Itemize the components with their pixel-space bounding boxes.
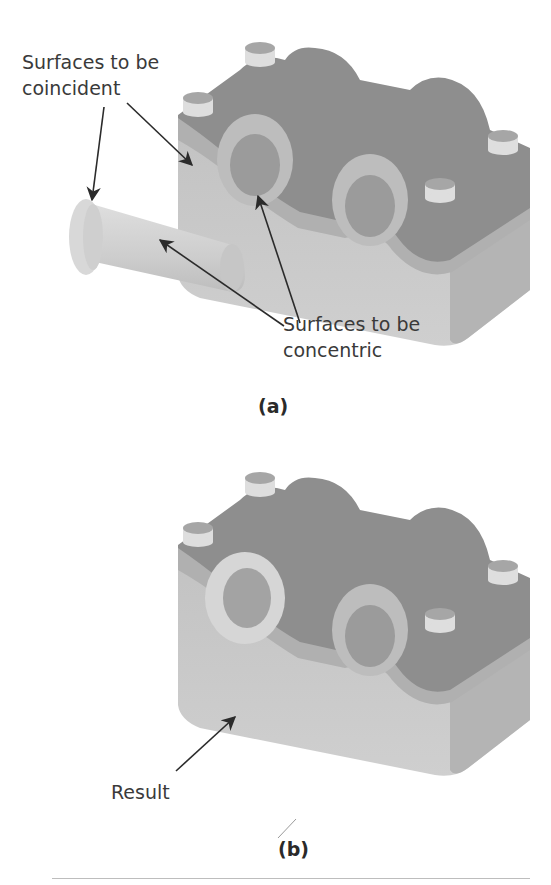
caption-panel-b: (b): [278, 838, 309, 860]
pin: [183, 92, 213, 117]
label-coincident-line1: Surfaces to be: [22, 50, 159, 74]
caption-panel-a: (a): [258, 395, 288, 417]
label-concentric-line2: concentric: [283, 338, 382, 362]
label-coincident-line2: coincident: [22, 76, 120, 100]
label-concentric-line1: Surfaces to be: [283, 312, 420, 336]
housing-a: [178, 42, 530, 346]
housing-b: [178, 472, 530, 776]
pin: [425, 178, 455, 203]
figure: Surfaces to be coincident Surfaces to be…: [0, 0, 551, 885]
figure-drawing: [0, 0, 551, 885]
arrow-coincident-bushing: [92, 107, 104, 200]
pin: [488, 130, 518, 155]
divider-rule: [52, 878, 530, 879]
pin: [245, 42, 275, 67]
stray-mark: [278, 819, 296, 838]
label-result: Result: [111, 780, 170, 804]
